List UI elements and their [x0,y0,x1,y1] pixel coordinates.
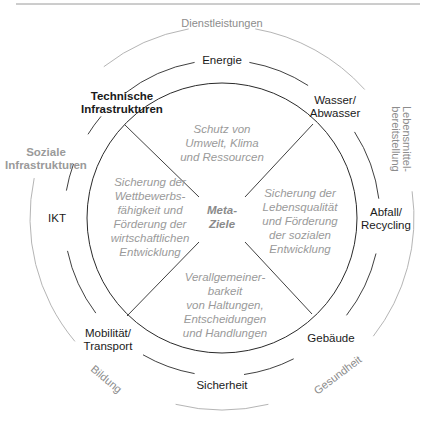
svg-text:wirtschaftlichen: wirtschaftlichen [111,232,190,244]
svg-text:fähigkeit und: fähigkeit und [117,204,183,216]
svg-text:Entscheidungen: Entscheidungen [184,313,266,325]
svg-text:Sicherung der: Sicherung der [264,187,337,199]
svg-text:Wasser/: Wasser/ [314,94,357,106]
svg-text:Ziele: Ziele [208,218,236,230]
middle-arc-segment [143,355,195,374]
goal-generalizability: Verallgemeiner- barkeit von Haltungen, E… [183,271,267,339]
outer-label-dienstleistungen: Dienstleistungen [181,17,262,29]
goal-social: Sicherung der Lebensqualität und Förderu… [262,187,338,255]
item-ikt: IKT [48,212,66,224]
outer-label-gesundheit: Gesundheit [312,353,364,396]
center-meta-ziele: Meta- Ziele [207,204,237,230]
svg-text:Entwicklung: Entwicklung [119,246,181,258]
group-technische-infrastrukturen: Technische Infrastrukturen [81,90,163,115]
item-energie: Energie [202,54,242,66]
middle-arc-segment [88,116,101,134]
svg-text:Infrastrukturen: Infrastrukturen [81,103,163,115]
middle-arc-segment [355,132,379,199]
outer-arc-segment [104,29,189,67]
item-sicherheit: Sicherheit [196,379,248,391]
middle-arc-segment [347,254,377,316]
item-wasser-abwasser: Wasser/ Abwasser [310,94,361,119]
svg-text:Umwelt, Klima: Umwelt, Klima [185,137,258,149]
svg-text:von Haltungen,: von Haltungen, [186,299,263,311]
svg-text:Technische: Technische [91,90,153,102]
svg-text:Abfall/: Abfall/ [370,206,403,218]
svg-text:Lebensqualität: Lebensqualität [263,201,339,213]
item-mobilitaet-transport: Mobilität/ Transport [84,327,134,352]
svg-text:Meta-: Meta- [207,204,237,216]
svg-text:Entwicklung: Entwicklung [269,243,331,255]
svg-text:Infrastrukturen: Infrastrukturen [5,159,87,171]
svg-text:und Ressourcen: und Ressourcen [180,151,264,163]
outer-label-lebensmittel: Lebensmittel- bereitstellung [390,106,413,172]
middle-arc-segment [244,359,294,375]
svg-text:Recycling: Recycling [361,219,411,231]
svg-text:Wettbewerbs-: Wettbewerbs- [115,190,186,202]
goal-economic: Sicherung der Wettbewerbs- fähigkeit und… [111,176,190,258]
goal-environment: Schutz von Umwelt, Klima und Ressourcen [180,123,264,163]
svg-text:und Handlungen: und Handlungen [183,327,267,339]
outer-label-bildung: Bildung [89,363,125,396]
item-gebaeude: Gebäude [307,332,354,344]
outer-arc-segment [30,178,75,341]
outer-arc-segment [176,404,269,410]
svg-text:Soziale: Soziale [26,146,66,158]
svg-text:und Förderung: und Förderung [262,215,338,227]
svg-text:Verallgemeiner-: Verallgemeiner- [185,271,266,283]
middle-arc-segment [68,251,96,313]
outer-arc-segment [255,29,364,90]
svg-text:barkeit: barkeit [208,285,243,297]
svg-text:Sicherung der: Sicherung der [114,176,187,188]
group-soziale-infrastrukturen: Soziale Infrastrukturen [5,146,87,171]
svg-text:Mobilität/: Mobilität/ [85,327,132,339]
svg-text:Transport: Transport [84,340,134,352]
svg-text:Abwasser: Abwasser [310,107,361,119]
svg-text:Förderung der: Förderung der [114,218,188,230]
svg-text:Schutz von: Schutz von [194,123,251,135]
item-abfall-recycling: Abfall/ Recycling [361,206,411,231]
svg-text:der sozialen: der sozialen [269,229,331,241]
svg-text:bereitstellung: bereitstellung [390,106,402,171]
middle-arc-segment [249,62,308,85]
meta-goals-diagram: Dienstleistungen Lebensmittel- bereitste… [0,0,435,424]
